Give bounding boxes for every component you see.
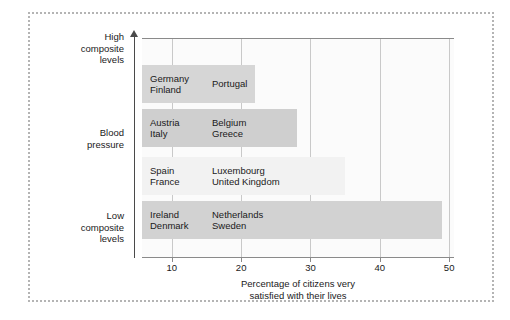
bar-row-1[interactable] — [142, 65, 255, 103]
y-axis-label-low: Low composite levels — [32, 210, 124, 245]
x-axis-title-line2: satisfied with their lives — [142, 290, 454, 302]
plot-area: GermanyFinlandPortugalAustriaItalyBelgiu… — [142, 38, 454, 258]
y-axis-title-line2: pressure — [32, 139, 124, 151]
bar-row-4[interactable] — [142, 201, 442, 239]
y-axis-label-high: High composite levels — [32, 31, 124, 66]
y-axis-label-high-line1: High — [32, 31, 124, 43]
y-axis-title: Blood pressure — [32, 127, 124, 150]
bar-row-2[interactable] — [142, 109, 297, 147]
x-axis-title-line1: Percentage of citizens very — [142, 278, 454, 290]
bar-row-3[interactable] — [142, 157, 345, 195]
y-axis-title-line1: Blood — [32, 127, 124, 139]
x-tick-label-40: 40 — [365, 262, 395, 273]
y-axis-label-low-line1: Low — [32, 210, 124, 222]
y-axis-label-low-line3: levels — [32, 233, 124, 245]
x-tick-label-50: 50 — [434, 262, 464, 273]
x-axis-title: Percentage of citizens very satisfied wi… — [142, 278, 454, 302]
x-tick-label-30: 30 — [295, 262, 325, 273]
y-axis-label-high-line2: composite — [32, 43, 124, 55]
y-axis-line — [134, 36, 135, 258]
y-axis-label-high-line3: levels — [32, 54, 124, 66]
x-tick-label-20: 20 — [226, 262, 256, 273]
gridline-50 — [449, 39, 450, 257]
x-tick-label-10: 10 — [157, 262, 187, 273]
horizontal-bar-chart: High composite levels Blood pressure Low… — [0, 0, 510, 320]
y-axis-label-low-line2: composite — [32, 222, 124, 234]
